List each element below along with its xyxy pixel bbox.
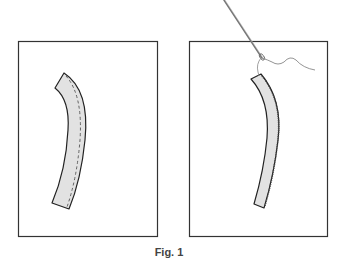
right-panel	[190, 42, 328, 237]
left-panel	[19, 42, 158, 237]
figure-caption: Fig. 1	[0, 246, 338, 258]
left-panel-frame	[19, 42, 158, 237]
right-panel-frame	[190, 42, 328, 237]
